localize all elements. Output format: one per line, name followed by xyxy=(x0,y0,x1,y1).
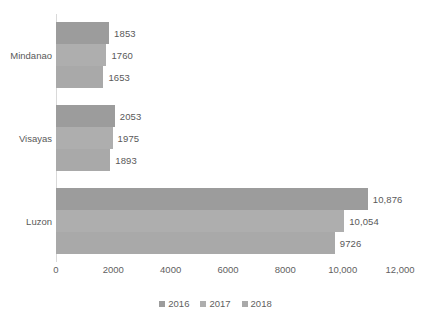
bar-row: 2053 xyxy=(56,105,400,127)
legend-label: 2018 xyxy=(251,298,272,309)
category-label-visayas: Visayas xyxy=(0,133,52,144)
bar-2018-luzon[interactable] xyxy=(56,232,335,254)
bar-row: 1893 xyxy=(56,149,400,171)
legend-item-2018[interactable]: 2018 xyxy=(242,298,272,309)
legend-label: 2017 xyxy=(209,298,230,309)
bar-2017-mindanao[interactable] xyxy=(56,44,106,66)
bar-row: 1853 xyxy=(56,22,400,44)
legend-label: 2016 xyxy=(168,298,189,309)
bar-row: 10,054 xyxy=(56,210,400,232)
bar-row: 1653 xyxy=(56,66,400,88)
legend-swatch-icon xyxy=(159,301,165,307)
bar-value-label: 1760 xyxy=(111,50,133,61)
category-label-mindanao: Mindanao xyxy=(0,50,52,61)
bar-group: 185317601653 xyxy=(56,22,400,88)
legend-item-2016[interactable]: 2016 xyxy=(159,298,189,309)
bar-2017-visayas[interactable] xyxy=(56,127,113,149)
bar-value-label: 1975 xyxy=(118,132,140,143)
x-tick-label: 10,000 xyxy=(328,264,357,275)
bar-value-label: 1893 xyxy=(115,155,137,166)
x-tick-label: 2000 xyxy=(103,264,124,275)
value-axis-ticks: 0200040006000800010,00012,000 xyxy=(0,264,431,280)
x-tick-label: 8000 xyxy=(275,264,296,275)
bar-value-label: 2053 xyxy=(120,110,142,121)
bar-group: 205319751893 xyxy=(56,105,400,171)
bar-2018-visayas[interactable] xyxy=(56,149,110,171)
bar-value-label: 9726 xyxy=(340,237,362,248)
bar-group: 10,87610,0549726 xyxy=(56,188,400,254)
bar-2016-mindanao[interactable] xyxy=(56,22,109,44)
bar-row: 1760 xyxy=(56,44,400,66)
bar-2016-luzon[interactable] xyxy=(56,188,368,210)
bar-value-label: 1853 xyxy=(114,28,136,39)
x-tick-label: 12,000 xyxy=(385,264,414,275)
x-tick-label: 0 xyxy=(53,264,58,275)
bar-row: 9726 xyxy=(56,232,400,254)
x-tick-label: 4000 xyxy=(160,264,181,275)
bar-row: 10,876 xyxy=(56,188,400,210)
bar-value-label: 10,054 xyxy=(349,215,379,226)
bar-value-label: 1653 xyxy=(108,72,130,83)
legend-item-2017[interactable]: 2017 xyxy=(200,298,230,309)
x-tick-label: 6000 xyxy=(217,264,238,275)
bar-chart: 18531760165320531975189310,87610,0549726… xyxy=(0,0,431,319)
bar-value-label: 10,876 xyxy=(373,193,403,204)
bar-2017-luzon[interactable] xyxy=(56,210,344,232)
legend-swatch-icon xyxy=(200,301,206,307)
category-label-luzon: Luzon xyxy=(0,215,52,226)
legend-swatch-icon xyxy=(242,301,248,307)
bar-row: 1975 xyxy=(56,127,400,149)
bar-2018-mindanao[interactable] xyxy=(56,66,103,88)
bar-2016-visayas[interactable] xyxy=(56,105,115,127)
plot-area: 18531760165320531975189310,87610,0549726 xyxy=(56,14,400,262)
chart-legend: 201620172018 xyxy=(0,298,431,309)
